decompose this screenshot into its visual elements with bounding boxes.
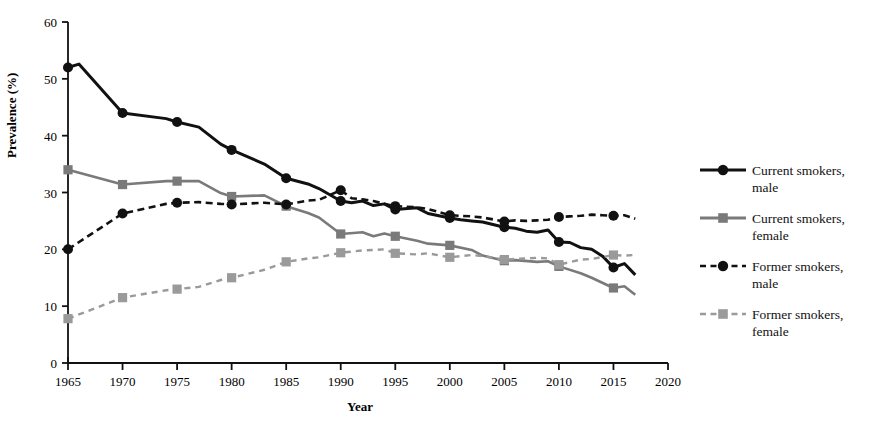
x-tick-label: 2020 (655, 374, 681, 389)
legend-label-line2: male (752, 276, 778, 291)
legend-label-line2: female (752, 228, 789, 243)
data-point-marker (118, 108, 128, 118)
data-point-marker (336, 185, 346, 195)
legend-swatch-marker (718, 165, 728, 175)
data-point-marker (608, 211, 618, 221)
data-point-marker (172, 177, 181, 186)
legend-item-former_male[interactable]: Former smokers,male (700, 259, 844, 291)
legend-label-line1: Current smokers, (752, 211, 845, 226)
data-point-marker (63, 314, 72, 323)
data-point-marker (281, 199, 291, 209)
legend: Current smokers,maleCurrent smokers,fema… (700, 163, 845, 339)
y-tick-label: 20 (44, 242, 57, 257)
x-tick-label: 2010 (546, 374, 572, 389)
x-tick-label: 1985 (273, 374, 299, 389)
data-point-marker (227, 273, 236, 282)
legend-swatch-marker (718, 309, 728, 319)
series-former_female (63, 248, 635, 323)
data-point-marker (554, 260, 563, 269)
data-point-marker (172, 285, 181, 294)
data-point-marker (118, 209, 128, 219)
data-point-marker (554, 237, 564, 247)
data-point-marker (445, 210, 455, 220)
x-tick-label: 1975 (164, 374, 190, 389)
y-tick-label: 60 (44, 15, 57, 30)
x-tick-label: 1970 (110, 374, 136, 389)
data-point-marker (554, 212, 564, 222)
x-tick-label: 2015 (600, 374, 626, 389)
data-point-marker (118, 293, 127, 302)
data-point-marker (63, 165, 72, 174)
data-point-marker (336, 248, 345, 257)
legend-label-line1: Current smokers, (752, 163, 845, 178)
data-point-marker (499, 216, 509, 226)
series-former_male (63, 185, 635, 254)
data-point-marker (63, 62, 73, 72)
x-tick-label: 1980 (219, 374, 245, 389)
data-point-marker (609, 283, 618, 292)
data-point-marker (227, 199, 237, 209)
data-point-marker (445, 241, 454, 250)
series-line (68, 190, 635, 249)
data-point-marker (609, 250, 618, 259)
data-point-marker (391, 232, 400, 241)
y-tick-label: 0 (51, 356, 58, 371)
legend-swatch-marker (718, 261, 728, 271)
y-tick-label: 10 (44, 299, 57, 314)
legend-item-former_female[interactable]: Former smokers,female (700, 307, 844, 339)
data-point-marker (608, 263, 618, 273)
axis-lines (68, 22, 668, 363)
legend-label-line2: male (752, 180, 778, 195)
y-tick-label: 50 (44, 72, 57, 87)
data-point-marker (390, 201, 400, 211)
legend-label-line2: female (752, 324, 789, 339)
x-tick-label: 2000 (437, 374, 463, 389)
data-point-marker (172, 198, 182, 208)
series-line (68, 64, 635, 275)
data-point-marker (336, 229, 345, 238)
legend-label-line1: Former smokers, (752, 259, 844, 274)
line-chart-svg: 0102030405060 19651970197519801985199019… (0, 0, 884, 425)
x-tick-label: 1990 (328, 374, 354, 389)
y-tick-label: 40 (44, 129, 57, 144)
data-point-marker (282, 257, 291, 266)
legend-swatch-marker (718, 213, 728, 223)
data-point-marker (227, 145, 237, 155)
legend-item-current_female[interactable]: Current smokers,female (700, 211, 845, 243)
legend-item-current_male[interactable]: Current smokers,male (700, 163, 845, 195)
data-point-marker (281, 173, 291, 183)
data-point-marker (118, 180, 127, 189)
x-axis-title: Year (347, 399, 373, 414)
series-current_male (63, 62, 635, 274)
data-point-marker (445, 253, 454, 262)
data-point-marker (391, 249, 400, 258)
x-tick-label: 2005 (491, 374, 517, 389)
data-point-marker (172, 117, 182, 127)
x-tick-label: 1995 (382, 374, 408, 389)
data-point-marker (336, 196, 346, 206)
figure-chart-smoking-prevalence: Prevalence (%) 0102030405060 19651970197… (0, 0, 884, 425)
y-tick-label: 30 (44, 186, 57, 201)
x-axis-ticks: 1965197019751980198519901995200020052010… (55, 357, 681, 389)
data-point-marker (500, 255, 509, 264)
x-tick-label: 1965 (55, 374, 81, 389)
data-point-marker (63, 244, 73, 254)
series-line (68, 249, 635, 318)
data-series-group (63, 62, 635, 323)
legend-label-line1: Former smokers, (752, 307, 844, 322)
